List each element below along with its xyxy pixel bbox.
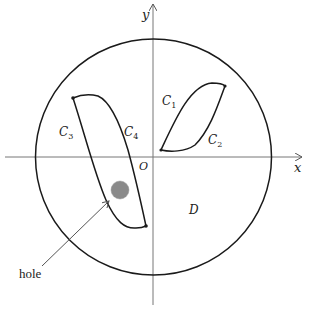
hole-label: hole xyxy=(19,266,42,281)
y-axis-label: y xyxy=(141,7,150,22)
region-label: D xyxy=(188,203,199,217)
curve-c3 xyxy=(73,98,146,228)
curve-c2-label: C2 xyxy=(208,133,222,149)
diagram-canvas: y x O D C1 C2 C3 C4 hole xyxy=(0,0,320,318)
origin-label: O xyxy=(139,160,148,173)
hole xyxy=(111,181,129,199)
curve-c4-endpoint xyxy=(144,224,148,228)
hole-pointer-arrow xyxy=(42,201,109,266)
curve-c4-label: C4 xyxy=(124,125,138,141)
x-axis-label: x xyxy=(294,160,302,175)
curve-c2-endpoint xyxy=(223,84,226,87)
curve-c3-endpoint xyxy=(71,96,75,100)
curve-c1-endpoint xyxy=(159,148,162,151)
curve-c1-label: C1 xyxy=(162,94,176,110)
curve-c3-label: C3 xyxy=(59,125,73,141)
